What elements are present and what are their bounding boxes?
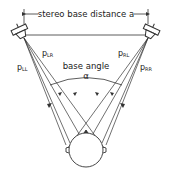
label-p-rr: pRR xyxy=(140,63,153,72)
stereo-listening-diagram: stereo base distance a base angle xyxy=(0,0,172,172)
base-angle-symbol: α xyxy=(83,71,89,81)
listener-head-icon xyxy=(66,130,106,167)
label-p-ll: pLL xyxy=(17,63,28,72)
left-speaker-icon xyxy=(9,20,30,40)
path-arrowheads xyxy=(47,92,125,108)
base-angle-label: base angle xyxy=(63,61,110,71)
label-p-rl: pRL xyxy=(118,49,130,58)
label-p-lr: pLR xyxy=(42,49,54,58)
right-speaker-icon xyxy=(141,20,162,40)
base-distance-label: stereo base distance a xyxy=(38,9,134,19)
